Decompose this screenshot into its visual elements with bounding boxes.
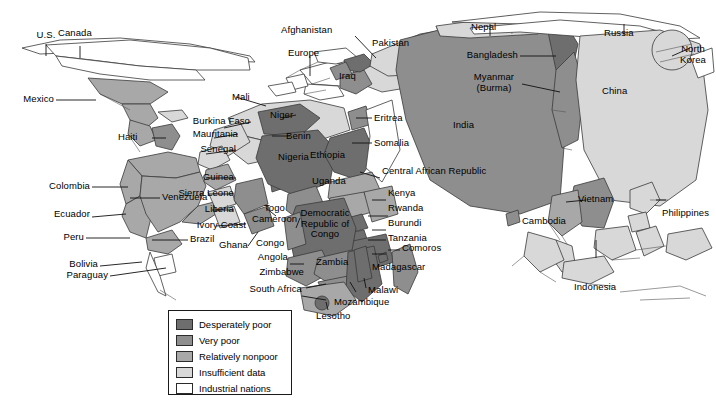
legend-item-desperately-poor: Desperately poor — [176, 317, 291, 332]
map-label-central-african-republic: Central African Republic — [382, 166, 486, 177]
cartogram-figure: .o{stroke:#3a3a3a;stroke-width:.8;stroke… — [0, 0, 716, 415]
map-label-iraq: Iraq — [339, 71, 356, 82]
map-label-north-korea: North Korea — [672, 44, 714, 65]
region-south-asia — [396, 16, 584, 226]
map-label-congo: Congo — [256, 238, 285, 249]
map-label-nigeria: Nigeria — [278, 152, 309, 163]
legend-item-very-poor: Very poor — [176, 333, 291, 348]
map-label-lesotho: Lesotho — [316, 311, 351, 322]
map-label-burundi: Burundi — [388, 218, 421, 229]
map-label-peru: Peru — [48, 232, 84, 243]
map-label-togo: Togo — [264, 203, 285, 214]
map-label-afghanistan: Afghanistan — [281, 25, 332, 36]
map-label-comoros: Comoros — [402, 243, 441, 254]
legend-label-desperately-poor: Desperately poor — [199, 319, 271, 330]
map-label-senegal: Senegal — [186, 144, 236, 155]
map-label-nepal: Nepal — [471, 22, 496, 33]
map-label-bangladesh: Bangladesh — [452, 50, 518, 61]
map-label-mauritania: Mauritania — [178, 129, 238, 140]
map-label-indonesia: Indonesia — [574, 282, 616, 293]
map-label-ecuador: Ecuador — [30, 209, 90, 220]
map-legend: Desperately poor Very poor Relatively no… — [168, 310, 292, 395]
map-label-somalia: Somalia — [374, 138, 409, 149]
legend-item-industrial-nations: Industrial nations — [176, 381, 291, 396]
legend-swatch-desperately-poor — [176, 319, 193, 330]
map-label-zambia: Zambia — [316, 257, 348, 268]
map-label-guinea: Guinea — [188, 172, 234, 183]
map-label-cameroon: Cameroon — [252, 214, 297, 225]
map-label-vietnam: Vietnam — [578, 194, 613, 205]
map-label-china: China — [602, 86, 627, 97]
map-label-india: India — [453, 120, 474, 131]
map-label-europe: Europe — [288, 48, 319, 59]
map-label-mozambique: Mozambique — [334, 297, 389, 308]
map-label-benin: Benin — [286, 131, 311, 142]
map-label-rwanda: Rwanda — [388, 203, 423, 214]
map-label-russia: Russia — [604, 28, 634, 39]
map-label-angola: Angola — [240, 252, 288, 263]
map-label-liberia: Liberia — [186, 204, 234, 215]
map-label-mexico: Mexico — [0, 94, 54, 105]
map-label-ghana: Ghana — [206, 240, 248, 251]
map-label-sierra-leone: Sierra Leone — [176, 188, 234, 199]
legend-label-industrial-nations: Industrial nations — [199, 383, 271, 394]
legend-item-insufficient-data: Insufficient data — [176, 365, 291, 380]
map-label-canada: Canada — [58, 28, 92, 39]
legend-swatch-industrial-nations — [176, 383, 193, 394]
legend-swatch-very-poor — [176, 335, 193, 346]
map-label-malawi: Malawi — [368, 285, 398, 296]
legend-label-very-poor: Very poor — [199, 335, 240, 346]
legend-item-relatively-nonpoor: Relatively nonpoor — [176, 349, 291, 364]
map-label-south-africa: South Africa — [230, 284, 302, 295]
map-label-democratic-republic-of-congo: Democratic Republic of Congo — [300, 208, 350, 240]
map-label-pakistan: Pakistan — [372, 38, 409, 49]
legend-swatch-insufficient-data — [176, 367, 193, 378]
map-label-philippines: Philippines — [662, 208, 709, 219]
map-label-haiti: Haiti — [118, 132, 138, 143]
map-label-uganda: Uganda — [312, 176, 346, 187]
map-label-cambodia: Cambodia — [508, 216, 566, 227]
map-label-ivory-coast: Ivory Coast — [184, 220, 246, 231]
map-label-burkina-faso: Burkina Faso — [176, 116, 250, 127]
map-label-paraguay: Paraguay — [48, 270, 108, 281]
world-cartogram-graphic: .o{stroke:#3a3a3a;stroke-width:.8;stroke… — [0, 0, 716, 415]
map-label-mali: Mali — [232, 92, 250, 103]
map-label-ethiopia: Ethiopia — [310, 150, 345, 161]
map-label-eritrea: Eritrea — [374, 113, 403, 124]
map-label-bolivia: Bolivia — [44, 259, 98, 270]
map-label-zimbabwe: Zimbabwe — [240, 267, 304, 278]
legend-label-relatively-nonpoor: Relatively nonpoor — [199, 351, 278, 362]
legend-label-insufficient-data: Insufficient data — [199, 367, 265, 378]
map-label-colombia: Colombia — [28, 181, 90, 192]
map-label-madagascar: Madagascar — [372, 262, 425, 273]
map-label-niger: Niger — [270, 110, 293, 121]
map-label-kenya: Kenya — [388, 188, 415, 199]
legend-swatch-relatively-nonpoor — [176, 351, 193, 362]
map-label-myanmar: Myanmar (Burma) — [466, 72, 522, 93]
